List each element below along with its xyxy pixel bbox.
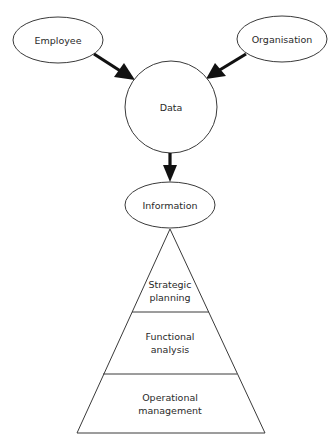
arrowhead-icon <box>163 165 177 182</box>
data-label: Data <box>160 102 183 113</box>
level-label-line2: management <box>138 405 202 416</box>
level-label-line1: Operational <box>142 392 198 403</box>
node-information: Information <box>125 182 215 228</box>
information-label: Information <box>143 200 198 211</box>
arrow-data-to-information <box>163 153 177 182</box>
arrowhead-icon <box>114 63 135 80</box>
diagram-canvas: Employee Organisation Data Information S… <box>0 0 336 446</box>
level-label-line1: Strategic <box>149 279 192 290</box>
employee-label: Employee <box>34 35 81 46</box>
level-label-line1: Functional <box>146 331 195 342</box>
level-label-line2: analysis <box>151 344 190 355</box>
organisation-label: Organisation <box>252 34 313 45</box>
node-organisation: Organisation <box>237 16 327 62</box>
node-data: Data <box>125 61 217 153</box>
arrow-organisation-to-data <box>206 54 246 79</box>
arrowhead-icon <box>206 63 226 79</box>
node-employee: Employee <box>13 17 103 63</box>
arrow-employee-to-data <box>94 54 135 80</box>
pyramid: Strategic planning Functional analysis O… <box>77 229 265 433</box>
level-label-line2: planning <box>149 292 190 303</box>
